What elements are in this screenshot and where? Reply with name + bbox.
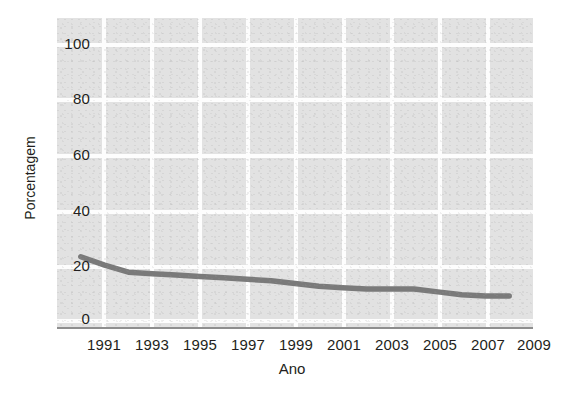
- x-tick-label: 2007: [471, 336, 505, 353]
- y-tick-label: 40: [73, 202, 90, 219]
- chart-figure: 100 80 60 40 20 0 1991 1993 1995 1997 19…: [0, 0, 584, 393]
- x-tick-label: 2001: [327, 336, 361, 353]
- y-tick-label: 20: [73, 257, 90, 274]
- data-series-line: [57, 18, 533, 327]
- x-tick-label: 2009: [517, 336, 551, 353]
- y-tick-label: 0: [81, 310, 90, 327]
- y-axis-tick-labels: 100 80 60 40 20 0: [0, 0, 90, 393]
- plot-area: [57, 18, 533, 327]
- x-tick-label: 1999: [279, 336, 313, 353]
- x-tick-label: 1995: [183, 336, 217, 353]
- x-axis-title: Ano: [0, 360, 584, 377]
- y-tick-label: 80: [73, 90, 90, 107]
- x-tick-label: 2005: [423, 336, 457, 353]
- y-tick-label: 60: [73, 146, 90, 163]
- x-tick-label: 1993: [135, 336, 169, 353]
- x-tick-label: 1997: [231, 336, 265, 353]
- x-axis-line: [57, 327, 533, 329]
- y-axis-title: Porcentagem: [22, 108, 38, 248]
- y-tick-label: 100: [64, 35, 90, 52]
- x-tick-label: 1991: [87, 336, 121, 353]
- x-tick-label: 2003: [375, 336, 409, 353]
